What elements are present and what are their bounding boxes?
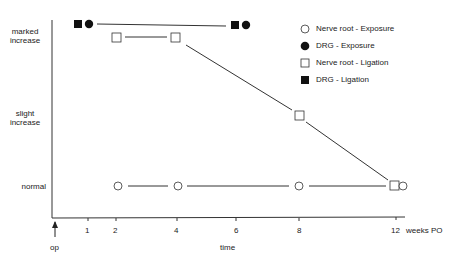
x-unit-label: weeks PO: [406, 226, 442, 235]
legend-label: Nerve root - Ligation: [316, 58, 388, 67]
legend-item-nr-ligation: Nerve root - Ligation: [300, 54, 394, 71]
x-tick-6: 6: [234, 226, 238, 235]
legend-label: DRG - Ligation: [316, 75, 369, 84]
marker-drg-exposure: [242, 21, 250, 29]
marker-nr-ligation: [390, 181, 399, 190]
marker-nr-ligation: [295, 111, 304, 120]
x-tick-8: 8: [297, 226, 301, 235]
legend-item-nr-exposure: Nerve root - Exposure: [300, 20, 394, 37]
y-label-slight: slight increase: [2, 109, 48, 127]
legend-label: DRG - Exposure: [316, 41, 375, 50]
marker-nr-ligation: [112, 33, 121, 42]
series-line-nr-ligation-3: [306, 122, 388, 180]
legend-item-drg-ligation: DRG - Ligation: [300, 71, 394, 88]
marker-nr-exposure: [295, 182, 303, 190]
marker-nr-exposure: [399, 182, 407, 190]
open-circle-icon: [300, 24, 310, 34]
series-line-drg: [97, 24, 226, 26]
marker-nr-ligation: [171, 33, 180, 42]
x-tick-12: 12: [391, 226, 400, 235]
y-label-line: increase: [2, 118, 48, 127]
y-label-line: increase: [2, 36, 48, 45]
x-origin-label: op: [50, 243, 59, 252]
open-square-icon: [300, 58, 310, 68]
filled-square-icon: [300, 75, 310, 85]
y-label-normal: normal: [2, 182, 46, 191]
marker-drg-exposure: [85, 20, 93, 28]
legend-label: Nerve root - Exposure: [316, 24, 394, 33]
filled-circle-icon: [300, 41, 310, 51]
op-arrow-icon: [52, 221, 58, 237]
x-axis: [52, 217, 405, 218]
x-axis-title: time: [220, 243, 235, 252]
legend: Nerve root - Exposure DRG - Exposure Ner…: [300, 20, 394, 88]
marker-drg-ligation: [74, 20, 82, 28]
y-label-marked: marked increase: [2, 27, 48, 45]
marker-nr-exposure: [114, 182, 122, 190]
legend-item-drg-exposure: DRG - Exposure: [300, 37, 394, 54]
marker-nr-exposure: [174, 182, 182, 190]
x-tick-4: 4: [174, 226, 178, 235]
series-line-nr-ligation-2: [186, 45, 292, 110]
x-tick-1: 1: [85, 226, 89, 235]
y-label-line: slight: [2, 109, 48, 118]
x-tick-2: 2: [113, 226, 117, 235]
marker-drg-ligation: [231, 21, 239, 29]
y-label-line: marked: [2, 27, 48, 36]
